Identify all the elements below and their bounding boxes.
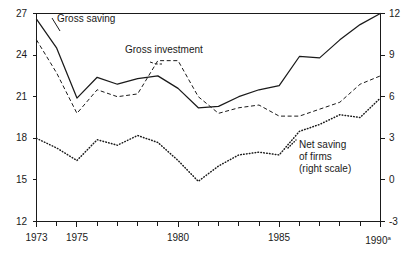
x-axis-label-1985: 1985 — [256, 233, 302, 243]
annotation-leaders — [52, 18, 296, 148]
axis-frame — [37, 14, 381, 222]
chart-container: 27 24 21 18 15 12 12 9 6 3 0 -3 1973 197… — [0, 0, 417, 259]
net-saving-label-line-2: of firms — [299, 151, 385, 163]
series-line-gross-saving — [37, 14, 381, 108]
y2-axis-label-3: 3 — [389, 133, 413, 143]
y-axis-label-27: 27 — [7, 9, 27, 19]
y-axis-label-15: 15 — [7, 175, 27, 185]
x-axis-label-1990-text: 1990 — [365, 235, 387, 246]
x-axis-label-1973: 1973 — [14, 233, 60, 243]
y2-axis-label-6: 6 — [389, 92, 413, 102]
y2-axis-label-minus-3: -3 — [389, 217, 413, 227]
net-saving-label: Net saving of firms (right scale) — [299, 139, 385, 175]
gross-investment-label: Gross investment — [125, 44, 203, 56]
x-axis-ticks — [37, 222, 381, 227]
y-axis-label-21: 21 — [7, 92, 27, 102]
left-axis-ticks — [33, 14, 37, 222]
y2-axis-label-12: 12 — [389, 9, 413, 19]
net-saving-label-line-3: (right scale) — [299, 163, 385, 175]
x-axis-label-1990: 1990a — [355, 233, 401, 246]
y2-axis-label-0: 0 — [389, 175, 413, 185]
x-axis-label-1975: 1975 — [54, 233, 100, 243]
y-axis-label-24: 24 — [7, 50, 27, 60]
y2-axis-label-9: 9 — [389, 50, 413, 60]
gross-saving-label: Gross saving — [57, 13, 115, 25]
right-axis-ticks — [381, 14, 385, 222]
series-line-gross-investment — [37, 40, 381, 116]
x-axis-label-1980: 1980 — [155, 233, 201, 243]
x-axis-label-footnote-marker: a — [387, 235, 390, 241]
y-axis-label-18: 18 — [7, 133, 27, 143]
chart-plot-area — [0, 0, 417, 259]
y-axis-label-12: 12 — [7, 217, 27, 227]
net-saving-label-line-1: Net saving — [299, 139, 385, 151]
